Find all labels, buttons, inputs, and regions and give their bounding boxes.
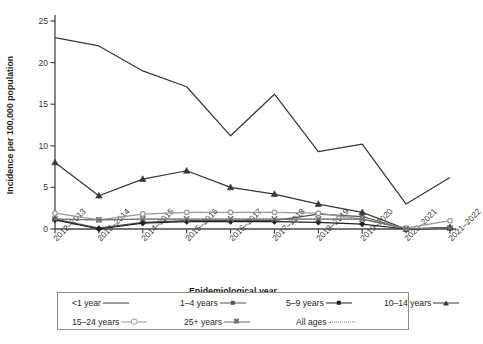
legend-row-1: <1 year 1–4 years 5–9 years 10–14 years [58, 293, 408, 312]
legend-key-line [329, 321, 355, 322]
legend-item-label: <1 year [72, 298, 101, 308]
data-point-marker [316, 211, 321, 216]
legend-key [433, 298, 459, 308]
legend-marker-triangle [443, 300, 449, 305]
chart-legend: <1 year 1–4 years 5–9 years 10–14 years … [57, 292, 409, 330]
legend-key [220, 298, 246, 308]
data-point-marker [52, 159, 58, 165]
legend-item-label: 1–4 years [180, 298, 218, 308]
legend-item[interactable]: <1 year [72, 293, 129, 312]
legend-key [121, 317, 147, 327]
legend-item-label: All ages [296, 317, 327, 327]
legend-marker-diamond [231, 300, 235, 304]
legend-key [329, 317, 355, 327]
legend-item[interactable]: 15–24 years [72, 312, 147, 331]
legend-key [326, 298, 352, 308]
legend-marker-circle [131, 318, 138, 325]
data-point-marker [272, 210, 277, 215]
legend-key [103, 298, 129, 308]
data-point-marker [53, 211, 58, 216]
legend-item[interactable]: 25+ years ✖ [184, 312, 250, 331]
legend-item-label: 10–14 years [384, 298, 431, 308]
legend-item-label: 15–24 years [72, 317, 119, 327]
legend-item[interactable]: 5–9 years [286, 293, 352, 312]
legend-item[interactable]: 10–14 years [384, 293, 459, 312]
legend-item-label: 5–9 years [286, 298, 324, 308]
data-point-marker [448, 218, 453, 223]
legend-key: ✖ [224, 317, 250, 327]
data-point-marker [96, 226, 102, 232]
axis-lines [55, 15, 456, 229]
legend-item[interactable]: All ages [296, 312, 355, 331]
legend-item[interactable]: 1–4 years [180, 293, 246, 312]
legend-marker-diamond [337, 300, 341, 304]
data-point-marker [140, 212, 145, 217]
legend-marker-x: ✖ [233, 318, 240, 326]
data-point-marker [183, 167, 189, 173]
legend-key-line [103, 302, 129, 303]
series-line [55, 38, 450, 204]
legend-row-2: 15–24 years 25+ years ✖ All ages [58, 312, 408, 331]
legend-item-label: 25+ years [184, 317, 222, 327]
data-point-marker [228, 210, 233, 215]
series--1-year [55, 38, 450, 204]
data-point-marker [184, 210, 189, 215]
